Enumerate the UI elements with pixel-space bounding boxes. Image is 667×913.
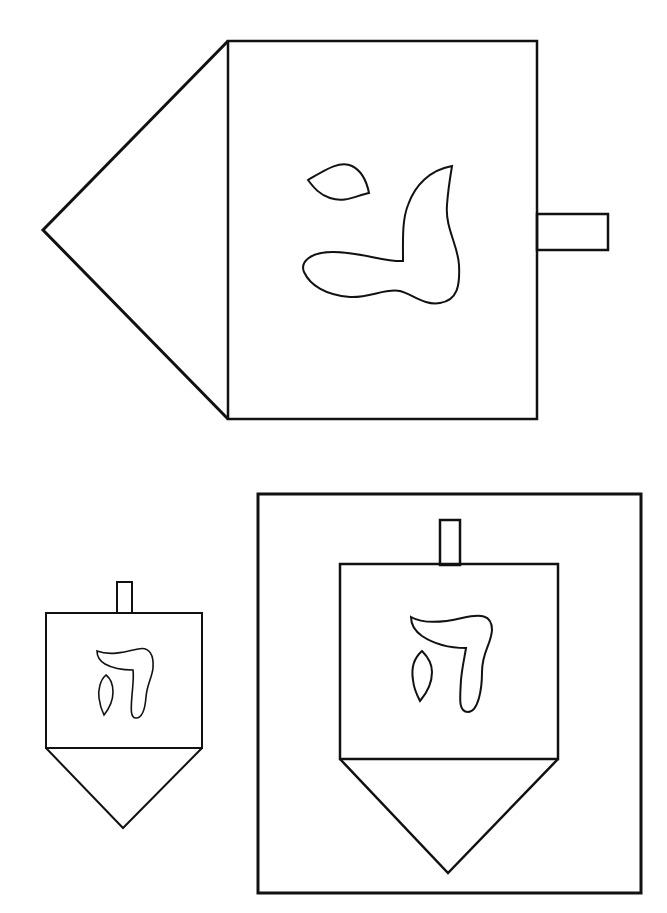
coloring-page: Dreidel coloring page (0, 0, 667, 913)
drawing-canvas (0, 0, 667, 913)
